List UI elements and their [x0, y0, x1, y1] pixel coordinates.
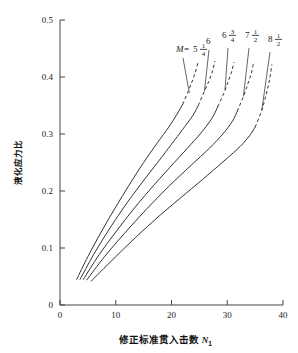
magnitude-fraction-numerator: 3 — [231, 28, 235, 36]
chart-background — [0, 0, 298, 353]
x-axis-title: 修正标准贯入击数 N1 — [118, 334, 212, 347]
magnitude-symbol: M — [175, 44, 184, 54]
magnitude-fraction-denominator: 2 — [254, 36, 258, 44]
magnitude-fraction-denominator: 4 — [231, 36, 235, 44]
x-axis-title-subscript: 1 — [208, 340, 212, 347]
x-tick-label: 40 — [279, 310, 289, 320]
magnitude-whole: 8 — [268, 34, 273, 44]
magnitude-whole: 5 — [193, 44, 198, 54]
y-axis-title: 液化应力比 — [13, 140, 23, 185]
liquefaction-chart-figure: 00.10.20.30.40.5010203040 M=514663471281… — [0, 0, 298, 353]
magnitude-whole: 6 — [206, 36, 211, 46]
magnitude-fraction-numerator: 1 — [277, 32, 281, 40]
series-label-1: 6 — [206, 36, 211, 46]
x-tick-label: 30 — [223, 310, 233, 320]
x-tick-label: 0 — [58, 310, 63, 320]
magnitude-whole: 6 — [222, 30, 227, 40]
magnitude-fraction-numerator: 1 — [254, 28, 258, 36]
y-tick-label: 0.3 — [42, 129, 54, 139]
magnitude-fraction-denominator: 2 — [277, 40, 281, 48]
y-tick-label: 0.5 — [42, 15, 54, 25]
magnitude-fraction-denominator: 4 — [202, 50, 206, 58]
x-tick-label: 10 — [111, 310, 121, 320]
equals-sign: = — [184, 44, 189, 54]
x-tick-label: 20 — [167, 310, 177, 320]
y-tick-label: 0.2 — [42, 186, 53, 196]
y-tick-label: 0.4 — [42, 72, 54, 82]
y-tick-label: 0.1 — [42, 243, 53, 253]
y-tick-label: 0 — [49, 300, 54, 310]
magnitude-whole: 7 — [245, 30, 250, 40]
chart-canvas: 00.10.20.30.40.5010203040 M=514663471281… — [0, 0, 298, 353]
